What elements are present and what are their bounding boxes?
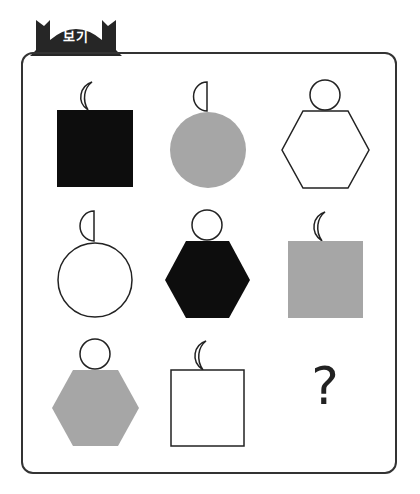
circle-gray [170,112,246,188]
half-circle-icon [194,82,207,111]
cell-r1c2 [170,82,246,188]
square-white [171,370,244,446]
crescent-icon [81,82,92,110]
puzzle-grid [0,0,420,494]
cell-r1c3 [282,80,369,188]
cell-r3c2 [171,341,244,446]
circle-white [58,243,132,317]
answer-placeholder: ? [300,356,350,416]
small-circle-icon [80,339,110,369]
cell-r3c1 [52,339,139,446]
small-circle-icon [310,80,340,110]
square-black [57,110,133,187]
cell-r2c3 [288,212,363,318]
cell-r2c2 [165,210,250,318]
square-gray [288,241,363,318]
cell-r2c1 [58,211,132,317]
cell-r1c1 [57,82,133,187]
half-circle-icon [80,211,94,241]
crescent-icon [195,341,206,370]
hexagon-black [165,241,250,318]
crescent-icon [314,212,325,241]
hexagon-white [282,111,369,188]
small-circle-icon [192,210,222,240]
hexagon-gray [52,370,139,446]
